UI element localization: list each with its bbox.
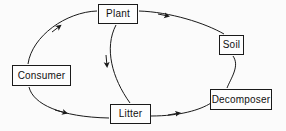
node-plant[interactable]: Plant: [98, 4, 138, 24]
edge-consumer-to-litter-arrowhead: [55, 110, 66, 113]
edge-plant-to-litter: [110, 25, 130, 103]
node-litter[interactable]: Litter: [110, 104, 151, 124]
edge-soil-to-decomposer: [227, 56, 236, 88]
node-soil-label: Soil: [223, 40, 240, 50]
node-consumer[interactable]: Consumer: [12, 65, 71, 86]
node-decomposer[interactable]: Decomposer: [210, 89, 272, 110]
edge-litter-to-decomposer: [151, 103, 211, 116]
node-soil[interactable]: Soil: [219, 35, 244, 55]
node-consumer-label: Consumer: [18, 70, 66, 80]
node-decomposer-label: Decomposer: [212, 94, 271, 104]
edge-consumer-to-plant: [28, 11, 97, 64]
edge-plant-to-litter-arrowhead: [106, 55, 107, 66]
edge-consumer-to-litter: [29, 87, 109, 118]
edge-plant-to-soil: [139, 11, 224, 34]
node-plant-label: Plant: [106, 9, 130, 19]
node-litter-label: Litter: [119, 109, 142, 119]
diagram-canvas: Plant Consumer Soil Litter Decomposer: [0, 0, 286, 131]
